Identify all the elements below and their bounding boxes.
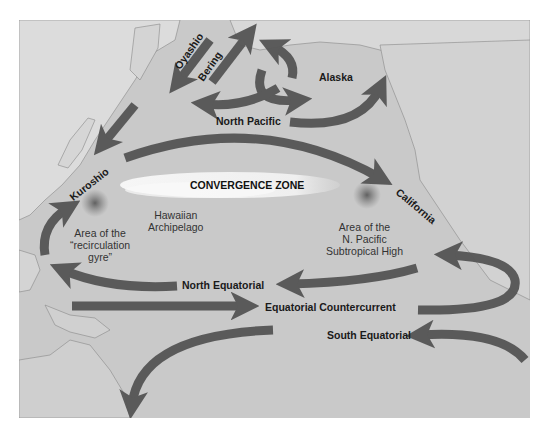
north-pacific-main-arrow	[125, 138, 380, 178]
label-north-pacific: North Pacific	[216, 115, 281, 127]
kamchatka	[130, 24, 160, 80]
label-subtropical-high: Area of the N. Pacific Subtropical High	[326, 221, 403, 257]
north-pacific-east-arrow	[290, 88, 380, 123]
south-equatorial-arrow	[420, 334, 525, 360]
kuroshio-recirc-arrow	[44, 208, 68, 255]
north-equatorial-east-arrow	[290, 268, 417, 284]
alaska-arrow-top	[272, 46, 293, 78]
north-pacific-west-arrow	[205, 88, 278, 105]
label-north-equatorial: North Equatorial	[182, 279, 264, 291]
label-convergence-zone: CONVERGENCE ZONE	[190, 179, 304, 191]
label-equatorial-countercurrent: Equatorial Countercurrent	[265, 301, 396, 313]
south-equatorial-west-arrow	[132, 330, 273, 405]
philippines	[19, 250, 40, 292]
label-recirculation-gyre: Area of the “recirculation gyre”	[70, 227, 130, 263]
subtropical-high-blob	[353, 181, 381, 209]
ocean-current-map	[0, 0, 546, 435]
australia	[19, 340, 130, 418]
north-equatorial-arrow	[63, 270, 177, 287]
label-south-equatorial: South Equatorial	[327, 329, 411, 341]
label-alaska: Alaska	[319, 71, 353, 83]
label-hawaiian-archipelago: Hawaiian Archipelago	[148, 209, 203, 233]
north-america-landmass	[380, 40, 530, 300]
